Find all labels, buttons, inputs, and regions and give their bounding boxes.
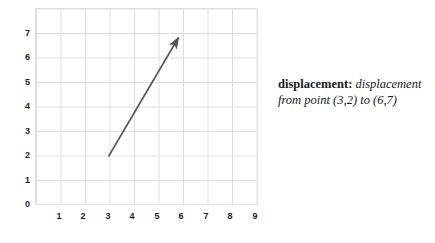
y-tick-6: 6 — [16, 53, 30, 62]
x-tick-1: 1 — [52, 212, 66, 221]
displacement-figure: 7 6 5 4 3 2 1 0 1 2 3 4 5 6 7 8 9 — [0, 0, 280, 243]
x-tick-8: 8 — [223, 212, 237, 221]
y-tick-1: 1 — [16, 176, 30, 185]
y-tick-0: 0 — [16, 200, 30, 209]
x-tick-2: 2 — [76, 212, 90, 221]
x-tick-5: 5 — [150, 212, 164, 221]
plot-grid — [35, 8, 258, 205]
x-tick-7: 7 — [199, 212, 213, 221]
y-tick-2: 2 — [16, 151, 30, 160]
caption-block: displacement: displacement from point (3… — [278, 76, 433, 108]
y-tick-7: 7 — [16, 29, 30, 38]
y-tick-3: 3 — [16, 127, 30, 136]
x-tick-4: 4 — [125, 212, 139, 221]
y-tick-4: 4 — [16, 102, 30, 111]
y-tick-5: 5 — [16, 78, 30, 87]
x-tick-9: 9 — [248, 212, 262, 221]
x-tick-3: 3 — [101, 212, 115, 221]
caption-term: displacement: — [278, 77, 352, 91]
x-tick-6: 6 — [174, 212, 188, 221]
